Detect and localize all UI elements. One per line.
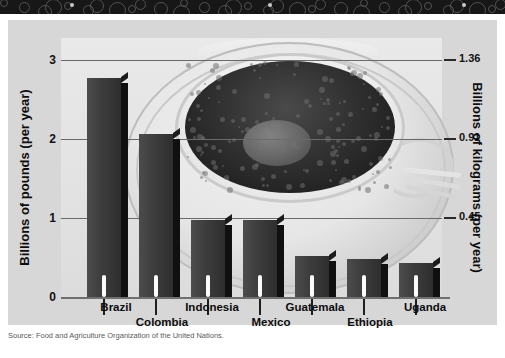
swirl-icon xyxy=(154,2,168,14)
bar-face xyxy=(87,78,121,297)
bar[interactable] xyxy=(87,78,128,297)
swirl-icon xyxy=(199,2,210,13)
swirl-icon xyxy=(315,0,326,10)
category-tick xyxy=(155,299,157,315)
bar-pin-marker xyxy=(310,275,314,297)
swirl-icon xyxy=(90,0,104,13)
bar-top-edge xyxy=(329,250,336,261)
swirl-icon xyxy=(289,2,306,14)
swirl-icon xyxy=(405,0,422,14)
bar-side xyxy=(277,225,284,297)
bar-top-edge xyxy=(433,257,440,268)
swirl-icon xyxy=(244,2,252,10)
bar[interactable] xyxy=(347,259,388,297)
category-label: Guatemala xyxy=(280,301,350,313)
bar-pin-marker xyxy=(258,275,262,297)
category-label: Ethiopia xyxy=(335,316,405,328)
chart-frame: 3210 1.360.910.45 Billions of pounds (pe… xyxy=(8,20,497,325)
bar[interactable] xyxy=(399,263,440,297)
swirl-icon xyxy=(424,2,432,10)
banner-dot xyxy=(70,3,74,7)
swirl-icon xyxy=(19,2,30,13)
swirl-icon xyxy=(45,0,62,14)
swirl-icon xyxy=(0,0,8,7)
right-axis-tick-label: 1.36 xyxy=(459,53,480,63)
swirl-icon xyxy=(379,2,390,13)
left-axis-tick-label: 1 xyxy=(36,213,56,223)
bar-top-edge xyxy=(225,214,232,225)
category-label: Colombia xyxy=(127,316,197,328)
swirl-icon xyxy=(495,0,505,10)
bar-pin-marker xyxy=(154,275,158,297)
bar-side xyxy=(173,139,180,297)
swirl-pattern xyxy=(0,0,505,14)
category-label: Uganda xyxy=(390,301,460,313)
swirl-icon xyxy=(270,0,284,13)
bar[interactable] xyxy=(139,134,180,297)
left-axis-title: Billions of pounds (per year) xyxy=(17,78,32,278)
banner-dot xyxy=(462,3,466,7)
left-axis-tick-label: 3 xyxy=(36,55,56,65)
right-axis-tick-mark xyxy=(444,59,456,61)
left-axis-tick-label: 0 xyxy=(36,292,56,302)
bar-top-edge xyxy=(173,128,180,139)
swirl-icon xyxy=(135,0,146,10)
bar-side xyxy=(121,83,128,297)
bar-top-edge xyxy=(121,72,128,83)
right-axis-title: Billions of kilograms (per year) xyxy=(470,78,485,278)
category-label: Brazil xyxy=(81,301,151,313)
axis-baseline xyxy=(61,297,450,299)
right-axis-tick-mark xyxy=(444,138,456,140)
bar-series xyxy=(61,38,442,297)
bar-side xyxy=(381,264,388,297)
category-label: Mexico xyxy=(236,316,306,328)
category-tick xyxy=(259,299,261,315)
chart-page: 3210 1.360.910.45 Billions of pounds (pe… xyxy=(0,0,505,358)
bar-face xyxy=(139,134,173,297)
swirl-icon xyxy=(469,2,486,14)
swirl-icon xyxy=(225,0,242,14)
bar-pin-marker xyxy=(102,275,106,297)
bar[interactable] xyxy=(243,220,284,297)
category-label: Indonesia xyxy=(177,301,247,313)
swirl-icon xyxy=(109,2,126,14)
source-note: Source: Food and Agriculture Organizatio… xyxy=(8,331,224,340)
bar[interactable] xyxy=(295,256,336,297)
bar-top-edge xyxy=(277,214,284,225)
right-axis-tick-mark xyxy=(444,217,456,219)
decorative-swirl-banner xyxy=(0,0,505,14)
bar-pin-marker xyxy=(362,275,366,297)
bar[interactable] xyxy=(191,220,232,297)
bar-side xyxy=(225,225,232,297)
bar-side xyxy=(433,268,440,297)
swirl-icon xyxy=(334,2,348,14)
bar-pin-marker xyxy=(414,275,418,297)
category-tick xyxy=(363,299,365,315)
banner-dot xyxy=(268,3,272,7)
bar-top-edge xyxy=(381,253,388,264)
bar-side xyxy=(329,261,336,297)
left-axis-tick-label: 2 xyxy=(36,134,56,144)
bar-pin-marker xyxy=(206,275,210,297)
